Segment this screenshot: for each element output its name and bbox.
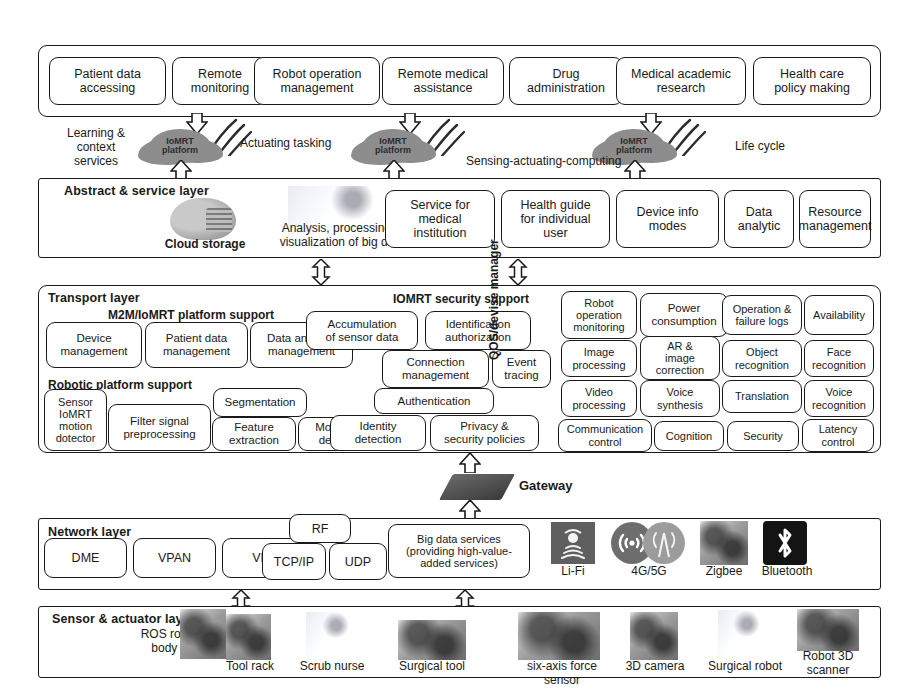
tool-rack-photo	[226, 614, 271, 660]
lifi-icon	[551, 522, 595, 564]
qos-box-power-consumption[interactable]: Power consumption	[640, 293, 728, 337]
qos-box-translation[interactable]: Translation	[722, 380, 802, 413]
abstract-box-health-guide-individual-user[interactable]: Health guide for individual user	[501, 190, 610, 248]
surgical-robot-photo	[718, 610, 766, 660]
network-box-dme[interactable]: DME	[44, 538, 127, 578]
surgical-tool-photo	[398, 620, 466, 660]
gateway-icon	[439, 474, 515, 500]
arrow-abstract-to-platform-3	[624, 160, 646, 180]
transport-layer-title: Transport layer	[48, 291, 140, 305]
ros-robotic-body-scan-photo	[180, 609, 226, 659]
qos-box-ar-image-correction[interactable]: AR & image correction	[640, 336, 720, 380]
abstract-box-service-for-medical-institution[interactable]: Service for medical institution	[385, 190, 495, 248]
m2m-platform-support-title: M2M/IoMRT platform support	[108, 308, 274, 322]
bluetooth-icon	[763, 521, 807, 565]
qos-box-cognition[interactable]: Cognition	[654, 421, 724, 451]
arrow-abstract-to-platform-2	[383, 160, 405, 180]
arrow-network-to-gateway	[459, 500, 481, 520]
transport-box-filter-signal-preprocessing[interactable]: Filter signal preprocessing	[108, 404, 211, 451]
transport-box-identity-detection[interactable]: Identity detection	[330, 415, 426, 451]
transport-box-feature-extraction[interactable]: Feature extraction	[212, 417, 296, 451]
iomrt-security-support-title: IOMRT security support	[393, 292, 529, 306]
qos-box-operation-failure-logs[interactable]: Operation & failure logs	[722, 295, 802, 335]
abstract-service-layer-title: Abstract & service layer	[64, 184, 209, 198]
scrub-nurse-photo	[306, 612, 356, 660]
network-layer-title: Network layer	[48, 525, 131, 539]
arrow-gateway-to-transport	[459, 453, 481, 473]
gateway-label: Gateway	[519, 479, 572, 494]
cloud-storage-caption: Cloud storage	[153, 238, 257, 252]
qos-box-latency-control[interactable]: Latency control	[802, 419, 874, 452]
app-box-robot-operation-management[interactable]: Robot operation management	[254, 57, 380, 105]
force-sensor-photo	[518, 612, 600, 660]
cloud-label: IoMRT platform	[361, 129, 425, 163]
surgical-robot-label: Surgical robot	[700, 660, 790, 674]
iomrt-platform-cloud-1: IoMRT platform	[148, 129, 212, 163]
iomrt-platform-cloud-2: IoMRT platform	[361, 129, 425, 163]
transport-box-patient-data-management[interactable]: Patient data management	[145, 322, 248, 368]
abstract-box-device-info-modes[interactable]: Device info modes	[616, 190, 719, 248]
transport-box-connection-management[interactable]: Connection management	[382, 350, 489, 388]
qos-box-object-recognition[interactable]: Object recognition	[722, 340, 802, 377]
app-box-medical-academic-research[interactable]: Medical academic research	[616, 57, 746, 105]
network-box-big-data-services[interactable]: Big data services (providing high-value-…	[388, 524, 530, 578]
abstract-box-data-analytic[interactable]: Data analytic	[724, 190, 794, 248]
zigbee-label: Zigbee	[694, 565, 754, 579]
qos-box-communication-control[interactable]: Communication control	[558, 419, 652, 452]
force-sensor-label: six-axis force sensor	[508, 660, 616, 687]
label-life-cycle: Life cycle	[735, 140, 785, 154]
arrow-abstract-transport-2	[508, 259, 528, 285]
cellular-label: 4G/5G	[617, 565, 681, 579]
arrow-abstract-transport-1	[311, 259, 331, 285]
network-box-rf[interactable]: RF	[289, 514, 351, 543]
sensor-actuator-layer-title: Sensor & actuator layer	[52, 612, 195, 626]
iomrt-architecture-diagram: Patient data accessing Remote monitoring…	[0, 0, 917, 697]
qos-box-voice-recognition[interactable]: Voice recognition	[804, 380, 874, 417]
qos-box-image-processing[interactable]: Image processing	[561, 340, 637, 377]
signal-waves-icon-3	[660, 116, 706, 156]
signal-waves-icon-2	[419, 116, 465, 156]
transport-box-accumulation-of-sensor-data[interactable]: Accumulation of sensor data	[306, 311, 418, 350]
label-sensing-actuating-computing: Sensing-actuating-computing	[466, 155, 621, 169]
cellular-antenna-icon	[608, 521, 688, 565]
qos-devise-manager-label: QOS/devise manager	[487, 239, 501, 360]
label-learning-context-services: Learning & context services	[48, 127, 144, 168]
scrub-nurse-label: Scrub nurse	[296, 660, 368, 674]
bluetooth-label: Bluetooth	[752, 565, 822, 579]
transport-box-segmentation[interactable]: Segmentation	[213, 388, 307, 417]
camera-photo	[630, 612, 678, 660]
qos-box-video-processing[interactable]: Video processing	[561, 380, 637, 417]
network-box-vpan[interactable]: VPAN	[133, 538, 216, 578]
cloud-storage-image	[170, 198, 236, 240]
qos-box-robot-operation-monitoring[interactable]: Robot operation monitoring	[561, 291, 637, 339]
qos-box-security[interactable]: Security	[727, 421, 799, 451]
transport-box-identification-authorization[interactable]: Identification authorization	[425, 311, 531, 350]
lifi-label: Li-Fi	[544, 565, 602, 579]
tool-rack-label: Tool rack	[218, 660, 282, 674]
robot-3d-scanner-label: Robot 3D scanner	[792, 650, 864, 677]
app-box-drug-administration[interactable]: Drug administration	[509, 57, 623, 105]
network-box-tcp-ip[interactable]: TCP/IP	[262, 543, 326, 580]
qos-box-face-recognition[interactable]: Face recognition	[804, 340, 874, 377]
transport-box-device-management[interactable]: Device management	[46, 322, 142, 368]
qos-box-availability[interactable]: Availability	[804, 295, 874, 335]
zigbee-module-icon	[700, 521, 748, 565]
label-actuating-tasking: Actuating tasking	[240, 137, 331, 151]
transport-box-privacy-security-policies[interactable]: Privacy & security policies	[430, 415, 539, 451]
abstract-box-resource-management[interactable]: Resource management	[799, 190, 871, 248]
transport-box-authentication[interactable]: Authentication	[374, 388, 494, 414]
app-box-patient-data-accessing[interactable]: Patient data accessing	[49, 57, 166, 105]
surgical-tool-label: Surgical tool	[392, 660, 472, 674]
robot-3d-scanner-photo	[797, 609, 859, 651]
cloud-label: IoMRT platform	[148, 129, 212, 163]
arrow-abstract-to-platform-1	[170, 160, 192, 180]
app-box-health-care-policy-making[interactable]: Health care policy making	[753, 57, 871, 105]
app-box-remote-medical-assistance[interactable]: Remote medical assistance	[382, 57, 504, 105]
qos-box-voice-synthesis[interactable]: Voice synthesis	[640, 380, 720, 417]
transport-box-sensor-iomrt-motion-dotector[interactable]: Sensor IoMRT motion dotector	[44, 389, 107, 451]
camera-label: 3D camera	[620, 660, 690, 674]
network-box-udp[interactable]: UDP	[329, 543, 387, 580]
